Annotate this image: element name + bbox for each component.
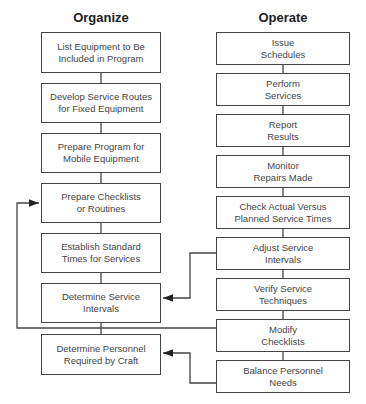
organize-step-1: List Equipment to Be Included in Program — [41, 32, 161, 73]
operate-step-6: Adjust Service Intervals — [216, 237, 350, 270]
operate-step-2: Perform Services — [216, 73, 350, 106]
organize-step-5: Establish Standard Times for Services — [41, 233, 161, 273]
operate-step-3: Report Results — [216, 114, 350, 147]
operate-step-8: Modify Checklists — [216, 319, 350, 352]
organize-step-2: Develop Service Routes for Fixed Equipme… — [41, 83, 161, 123]
operate-step-5: Check Actual Versus Planned Service Time… — [216, 196, 350, 229]
operate-step-9: Balance Personnel Needs — [216, 360, 350, 393]
organize-step-3: Prepare Program for Mobile Equipment — [41, 133, 161, 173]
operate-step-7: Verify Service Techniques — [216, 278, 350, 311]
organize-step-7: Determine Personnel Required by Craft — [41, 334, 161, 375]
operate-step-4: Monitor Repairs Made — [216, 155, 350, 188]
operate-step-1: Issue Schedules — [216, 32, 350, 65]
organize-step-4: Prepare Checklists or Routines — [41, 183, 161, 223]
organize-step-6: Determine Service Intervals — [41, 283, 161, 323]
